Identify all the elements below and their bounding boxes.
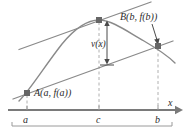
axis-tick-label-c: c <box>96 115 100 125</box>
x-axis-arrowhead <box>175 106 183 114</box>
label-point-b: B(b, f(b)) <box>120 12 157 22</box>
label-point-a: A(a, f(a)) <box>34 88 71 98</box>
point-marker-b <box>155 43 161 49</box>
point-marker-a <box>24 90 30 96</box>
mvt-diagram-figure: A(a, f(a)) B(b, f(b)) v(x) a c b x <box>0 0 184 133</box>
tangent-line <box>19 2 151 50</box>
label-vertical-distance: v(x) <box>91 40 106 50</box>
pointer-to-b-line <box>152 24 157 40</box>
axis-tick-label-a: a <box>23 115 28 125</box>
axis-tick-label-b: b <box>155 115 160 125</box>
point-marker-c <box>96 17 102 23</box>
axis-label-x: x <box>168 98 172 108</box>
